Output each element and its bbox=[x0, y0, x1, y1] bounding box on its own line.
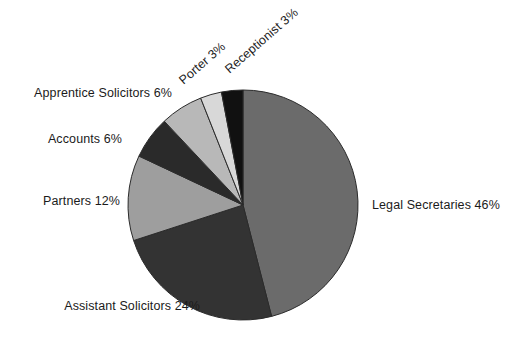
slice-label-legal-secretaries: Legal Secretaries 46% bbox=[372, 199, 500, 213]
slice-label-apprentice-solicitors: Apprentice Solicitors 6% bbox=[34, 87, 172, 101]
slice-label-assistant-solicitors: Assistant Solicitors 24% bbox=[64, 300, 200, 314]
pie-chart: Legal Secretaries 46% Apprentice Solicit… bbox=[0, 0, 518, 349]
slice-label-partners: Partners 12% bbox=[43, 195, 120, 209]
pie-slice-group bbox=[128, 90, 358, 320]
slice-label-accounts: Accounts 6% bbox=[48, 133, 122, 147]
